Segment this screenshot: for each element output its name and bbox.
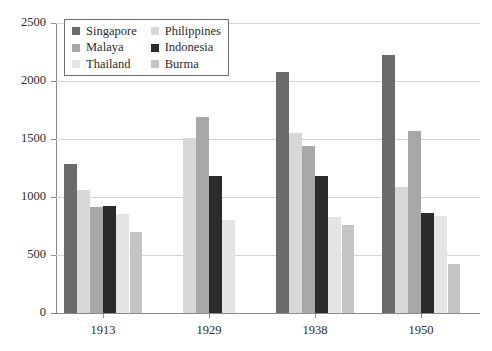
- legend-entry: Philippines: [151, 24, 221, 38]
- x-tick-label: 1929: [179, 324, 239, 337]
- legend-swatch-icon: [151, 60, 159, 68]
- x-tick-mark: [103, 313, 104, 318]
- legend-entry: Thailand: [72, 57, 137, 71]
- x-tick-mark: [315, 313, 316, 318]
- bar: [130, 232, 143, 313]
- bar: [196, 117, 209, 313]
- bar: [395, 187, 408, 313]
- legend-label: Burma: [165, 57, 199, 71]
- x-axis-line: [56, 313, 480, 314]
- bar: [315, 176, 328, 313]
- x-tick-mark: [421, 313, 422, 318]
- legend-label: Malaya: [86, 40, 123, 54]
- y-tick-label: 1500: [2, 132, 46, 145]
- bar: [183, 138, 196, 313]
- bar: [382, 55, 395, 313]
- y-tick-label: 0: [2, 306, 46, 319]
- legend-label: Singapore: [86, 24, 137, 38]
- x-tick-label: 1913: [73, 324, 133, 337]
- bar: [276, 72, 289, 313]
- legend-entry: Burma: [151, 57, 221, 71]
- bar: [289, 133, 302, 313]
- bar: [64, 164, 77, 313]
- chart-legend: SingaporePhilippinesMalayaIndonesiaThail…: [64, 19, 229, 76]
- y-tick-label: 2500: [2, 16, 46, 29]
- bar: [77, 190, 90, 313]
- legend-entry: Malaya: [72, 40, 137, 54]
- bar: [448, 264, 461, 313]
- legend-swatch-icon: [151, 44, 159, 52]
- x-tick-mark: [209, 313, 210, 318]
- legend-entry: Singapore: [72, 24, 137, 38]
- legend-swatch-icon: [151, 27, 159, 35]
- bar: [302, 146, 315, 313]
- bar: [222, 220, 235, 313]
- legend-label: Philippines: [165, 24, 221, 38]
- bar: [421, 213, 434, 313]
- bar: [209, 176, 222, 313]
- legend-swatch-icon: [72, 60, 80, 68]
- x-tick-label: 1938: [285, 324, 345, 337]
- bar: [342, 225, 355, 313]
- bar: [408, 131, 421, 313]
- bar: [434, 216, 447, 313]
- bar: [90, 207, 103, 313]
- bar: [116, 214, 129, 313]
- x-tick-label: 1950: [391, 324, 451, 337]
- legend-swatch-icon: [72, 27, 80, 35]
- legend-entry: Indonesia: [151, 40, 221, 54]
- legend-swatch-icon: [72, 44, 80, 52]
- legend-label: Indonesia: [165, 40, 214, 54]
- y-tick-label: 500: [2, 248, 46, 261]
- y-tick-label: 1000: [2, 190, 46, 203]
- legend-label: Thailand: [86, 57, 130, 71]
- y-tick-mark: [51, 313, 56, 314]
- bar: [328, 217, 341, 313]
- bar: [103, 206, 116, 313]
- bar-chart: 05001000150020002500 1913192919381950 Si…: [0, 0, 492, 351]
- y-tick-label: 2000: [2, 74, 46, 87]
